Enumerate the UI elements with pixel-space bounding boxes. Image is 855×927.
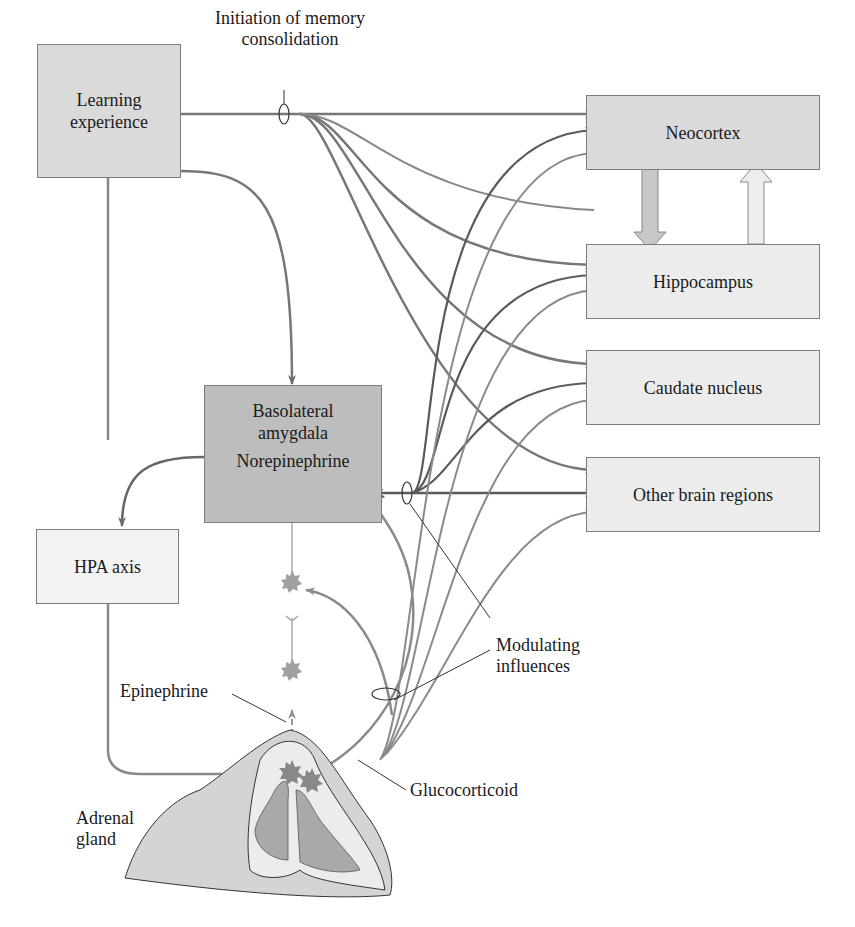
adrenal-line1: Adrenal: [76, 808, 134, 829]
node-hpa-axis: HPA axis: [36, 529, 179, 604]
epinephrine-star-icon-1: [281, 570, 302, 593]
hippocampus-label: Hippocampus: [653, 271, 753, 293]
modulating-influences-label: Modulating influences: [496, 635, 580, 677]
initiation-annotation: Initiation of memory consolidation: [195, 8, 385, 50]
other-regions-label: Other brain regions: [633, 484, 773, 506]
modulating-line1: Modulating: [496, 635, 580, 656]
glucocorticoid-label: Glucocorticoid: [410, 780, 518, 801]
adrenal-line2: gland: [76, 829, 134, 850]
norepinephrine-label: Norepinephrine: [237, 450, 350, 472]
learning-line1: Learning: [77, 89, 142, 111]
caudate-label: Caudate nucleus: [644, 377, 762, 399]
epinephrine-star-icon-2: [281, 658, 302, 681]
node-caudate-nucleus: Caudate nucleus: [586, 350, 820, 425]
amygdala-line1: Basolateral: [253, 400, 334, 422]
epinephrine-label: Epinephrine: [120, 681, 208, 702]
neocortex-label: Neocortex: [666, 122, 741, 144]
adrenal-gland-illustration: [125, 730, 392, 897]
node-neocortex: Neocortex: [586, 95, 820, 170]
node-other-brain-regions: Other brain regions: [586, 457, 820, 532]
node-basolateral-amygdala: Basolateral amygdala Norepinephrine: [204, 385, 382, 523]
learning-line2: experience: [70, 111, 148, 133]
initiation-line1: Initiation of memory: [195, 8, 385, 29]
modulating-line2: influences: [496, 656, 580, 677]
initiation-line2: consolidation: [195, 29, 385, 50]
adrenal-gland-label: Adrenal gland: [76, 808, 134, 850]
amygdala-line2: amygdala: [258, 422, 328, 444]
node-learning-experience: Learning experience: [37, 44, 181, 178]
hpa-label: HPA axis: [74, 556, 141, 578]
node-hippocampus: Hippocampus: [586, 244, 820, 319]
